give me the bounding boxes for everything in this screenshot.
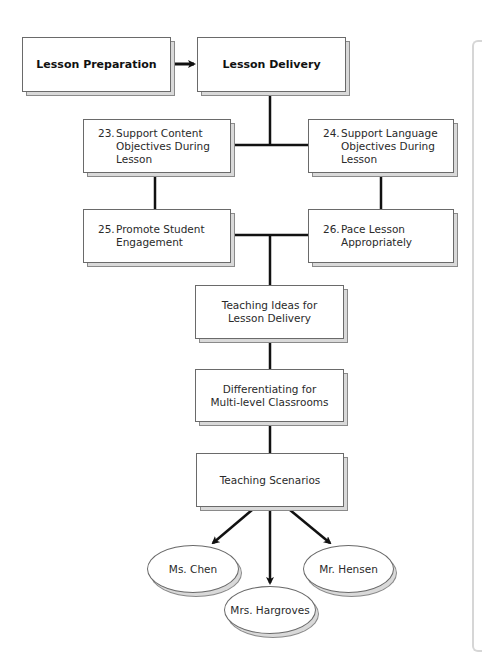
feature-26-box: 26.Pace Lesson Appropriately: [308, 209, 454, 263]
scenario-ms-chen: Ms. Chen: [147, 545, 239, 593]
lesson-delivery-label: Lesson Delivery: [198, 38, 345, 91]
section-text: Lesson Delivery: [222, 312, 317, 325]
scenario-mrs-hargroves: Mrs. Hargroves: [224, 586, 316, 634]
feature-23-box: 23.Support Content Objectives During Les…: [83, 119, 231, 173]
feature-number: 25.: [98, 223, 116, 236]
feature-text: Pace Lesson: [341, 223, 405, 236]
arrow-to-ms-chen: [213, 510, 252, 543]
feature-text: Support Language: [341, 127, 438, 140]
teaching-scenarios-box: Teaching Scenarios: [196, 453, 344, 507]
teaching-ideas-box: Teaching Ideas for Lesson Delivery: [195, 285, 344, 339]
section-text: Multi-level Classrooms: [210, 396, 328, 409]
scenario-mr-hensen: Mr. Hensen: [303, 545, 394, 593]
feature-25-box: 25.Promote Student Engagement: [83, 209, 231, 263]
feature-text: Objectives During: [116, 140, 210, 153]
lesson-preparation-box: Lesson Preparation: [22, 37, 171, 92]
feature-text: Lesson: [116, 153, 152, 166]
feature-number: 24.: [323, 127, 341, 140]
feature-number: 23.: [98, 127, 116, 140]
feature-text: Lesson: [341, 153, 377, 166]
feature-text: Appropriately: [341, 236, 412, 249]
section-text: Teaching Scenarios: [197, 454, 343, 506]
feature-text: Engagement: [116, 236, 183, 249]
section-text: Differentiating for: [210, 383, 328, 396]
lesson-preparation-label: Lesson Preparation: [23, 38, 170, 91]
feature-24-box: 24.Support Language Objectives During Le…: [308, 119, 454, 173]
differentiating-box: Differentiating for Multi-level Classroo…: [195, 369, 344, 422]
feature-number: 26.: [323, 223, 341, 236]
lesson-delivery-box: Lesson Delivery: [197, 37, 346, 92]
side-panel-edge: [472, 40, 482, 652]
feature-text: Objectives During: [341, 140, 435, 153]
feature-text: Support Content: [116, 127, 203, 140]
section-text: Teaching Ideas for: [222, 299, 317, 312]
feature-text: Promote Student: [116, 223, 205, 236]
arrow-to-mr-hensen: [290, 510, 330, 543]
